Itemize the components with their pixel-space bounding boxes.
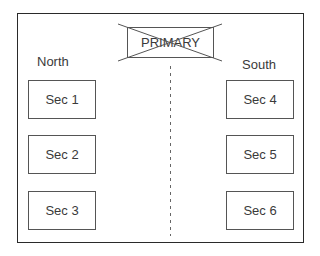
section-label: Sec 4 [243,92,276,107]
section-label: Sec 1 [45,92,78,107]
section-box-sec4: Sec 4 [226,80,294,119]
section-label: Sec 6 [243,203,276,218]
section-label: Sec 3 [45,203,78,218]
section-box-sec5: Sec 5 [226,135,294,174]
section-box-sec1: Sec 1 [28,80,96,119]
south-label: South [242,57,276,72]
section-label: Sec 5 [243,147,276,162]
section-label: Sec 2 [45,147,78,162]
section-box-sec2: Sec 2 [28,135,96,174]
primary-box: PRIMARY [127,27,214,58]
primary-label: PRIMARY [141,35,200,50]
section-box-sec6: Sec 6 [226,191,294,230]
north-label: North [37,54,69,69]
section-box-sec3: Sec 3 [28,191,96,230]
